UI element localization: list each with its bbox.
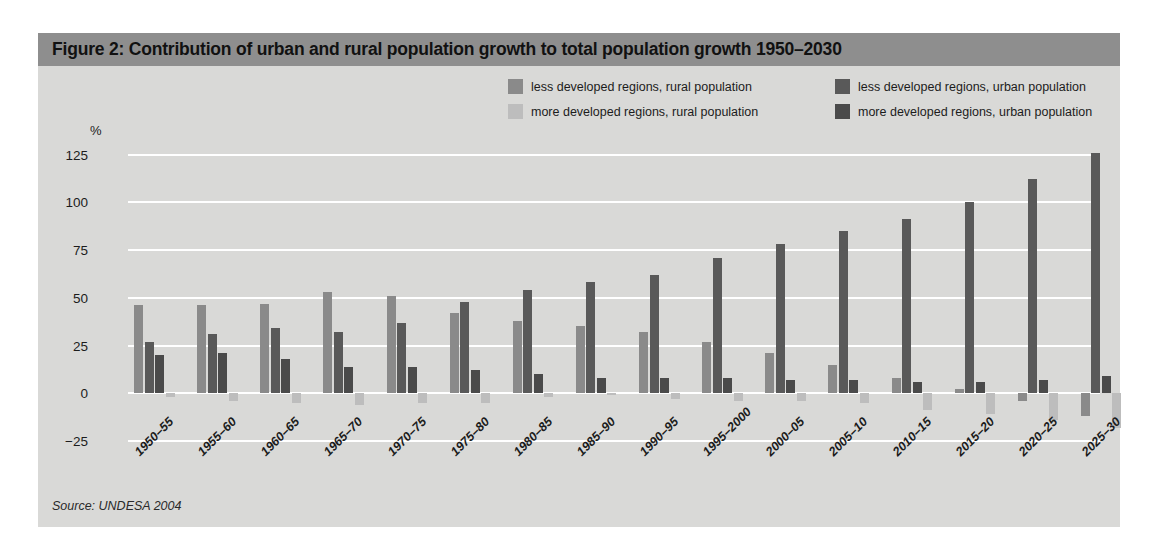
- chart-plot-area: % 1251007550250−25: [90, 145, 1100, 441]
- bar-group: [317, 145, 380, 441]
- bar: [892, 378, 901, 393]
- bar-group: [444, 145, 507, 441]
- bar-group: [254, 145, 317, 441]
- bar: [765, 353, 774, 393]
- bar: [387, 296, 396, 393]
- y-axis-tick-label: 75: [48, 243, 88, 258]
- bar: [828, 365, 837, 394]
- bar: [513, 321, 522, 394]
- legend-item-more-developed-urban: more developed regions, urban population: [835, 104, 1092, 119]
- bar: [660, 378, 669, 393]
- bar: [534, 374, 543, 393]
- bar: [723, 378, 732, 393]
- bar: [460, 302, 469, 394]
- bar-group: [191, 145, 254, 441]
- bar: [955, 389, 964, 393]
- bar: [408, 367, 417, 394]
- bar: [597, 378, 606, 393]
- bar: [839, 231, 848, 393]
- source-note: Source: UNDESA 2004: [52, 499, 181, 513]
- bar: [334, 332, 343, 393]
- legend-label: more developed regions, rural population: [531, 105, 758, 119]
- bar-group: [381, 145, 444, 441]
- bar: [576, 326, 585, 393]
- bar: [650, 275, 659, 393]
- bar: [1081, 393, 1090, 416]
- bar: [786, 380, 795, 393]
- bar: [544, 393, 553, 397]
- bar: [639, 332, 648, 393]
- bar-group: [1075, 145, 1138, 441]
- y-axis-tick-label: 25: [48, 338, 88, 353]
- legend-swatch-less-developed-rural: [508, 79, 523, 94]
- legend-item-less-developed-urban: less developed regions, urban population: [835, 79, 1086, 94]
- legend-swatch-more-developed-urban: [835, 104, 850, 119]
- bar: [797, 393, 806, 401]
- bar: [902, 219, 911, 393]
- page-title: Figure 2: Contribution of urban and rura…: [38, 39, 842, 60]
- bar: [323, 292, 332, 393]
- bar: [271, 328, 280, 393]
- bar: [713, 258, 722, 394]
- bar: [208, 334, 217, 393]
- bar: [292, 393, 301, 403]
- bar: [976, 382, 985, 393]
- bar: [281, 359, 290, 393]
- bar: [1091, 153, 1100, 394]
- bar: [1018, 393, 1027, 401]
- bar: [523, 290, 532, 393]
- bar: [260, 304, 269, 394]
- bar: [671, 393, 680, 399]
- bar-group: [128, 145, 191, 441]
- bar: [344, 367, 353, 394]
- x-axis-labels: 1950–551955–601960–651965–701970–751975–…: [90, 443, 1100, 513]
- legend-label: more developed regions, urban population: [858, 105, 1092, 119]
- bar: [418, 393, 427, 403]
- bar: [849, 380, 858, 393]
- bar: [229, 393, 238, 401]
- bar: [166, 393, 175, 397]
- bar: [776, 244, 785, 393]
- bar-group: [696, 145, 759, 441]
- bar: [1028, 179, 1037, 393]
- bar: [986, 393, 995, 414]
- bar: [450, 313, 459, 393]
- bar: [923, 393, 932, 410]
- legend-item-less-developed-rural: less developed regions, rural population: [508, 79, 752, 94]
- bar-group: [1012, 145, 1075, 441]
- bar-group: [507, 145, 570, 441]
- bar: [586, 282, 595, 393]
- y-axis-tick-label: 100: [48, 195, 88, 210]
- bar: [860, 393, 869, 403]
- bar: [965, 202, 974, 393]
- y-axis-tick-label: 50: [48, 290, 88, 305]
- bar: [702, 342, 711, 394]
- bar: [1039, 380, 1048, 393]
- legend-swatch-more-developed-rural: [508, 104, 523, 119]
- bar: [607, 393, 616, 395]
- bar-group: [570, 145, 633, 441]
- legend-label: less developed regions, rural population: [531, 80, 752, 94]
- y-axis-tick-label: 0: [48, 386, 88, 401]
- bar: [197, 305, 206, 393]
- legend-item-more-developed-rural: more developed regions, rural population: [508, 104, 758, 119]
- bar: [134, 305, 143, 393]
- figure-title-bar: Figure 2: Contribution of urban and rura…: [38, 33, 1120, 66]
- bar: [471, 370, 480, 393]
- y-axis-tick-label: −25: [48, 434, 88, 449]
- bar-group: [886, 145, 949, 441]
- bar-group: [949, 145, 1012, 441]
- bar: [355, 393, 364, 404]
- bar: [734, 393, 743, 401]
- bar: [155, 355, 164, 393]
- y-axis-unit-label: %: [90, 123, 102, 138]
- bar-group: [759, 145, 822, 441]
- bar-series-container: [128, 145, 1100, 441]
- y-axis-tick-label: 125: [48, 147, 88, 162]
- bar: [913, 382, 922, 393]
- bar: [481, 393, 490, 403]
- bar: [1102, 376, 1111, 393]
- bar: [218, 353, 227, 393]
- chart-legend: less developed regions, rural population…: [508, 79, 1108, 129]
- bar-group: [633, 145, 696, 441]
